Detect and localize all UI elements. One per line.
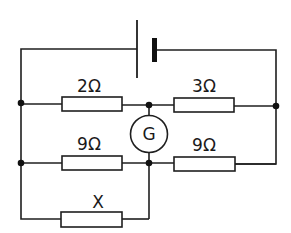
resistor-x-unknown: X	[61, 192, 122, 227]
resistor-9-ohm-right: 9Ω	[174, 135, 235, 171]
resistor-9-ohm-left: 9Ω	[62, 134, 122, 170]
resistor-label: 9Ω	[192, 135, 216, 155]
junction-dot-right	[273, 103, 280, 110]
bottom-branch-wires	[122, 163, 149, 219]
battery-cell-icon	[137, 20, 157, 78]
resistor-label: 9Ω	[77, 134, 101, 154]
junction-dot-center-top	[146, 102, 153, 109]
resistor-label: X	[92, 192, 104, 212]
junction-dot-left-bottom	[18, 160, 25, 167]
galvanometer-label: G	[142, 124, 155, 144]
resistor-3-ohm: 3Ω	[174, 76, 234, 112]
junction-dot-center-bottom	[146, 160, 153, 167]
junction-dot-left-top	[18, 100, 25, 107]
resistor-2-ohm: 2Ω	[62, 76, 122, 111]
resistor-label: 2Ω	[77, 76, 101, 96]
resistor-label: 3Ω	[192, 76, 216, 96]
galvanometer-icon: G	[131, 116, 168, 153]
circuit-diagram: 2Ω 3Ω 9Ω 9Ω X G	[0, 0, 291, 233]
